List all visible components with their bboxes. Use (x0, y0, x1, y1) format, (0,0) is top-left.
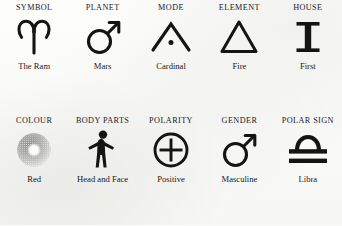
human-body-silhouette (68, 127, 136, 173)
column-header: SYMBOL (16, 3, 53, 13)
attribute-cell-symbol: SYMBOL The Ram (0, 0, 68, 113)
mars-masculine-glyph (205, 127, 273, 173)
attribute-caption: Fire (233, 61, 247, 72)
attribute-grid: SYMBOL The Ram PLANET (0, 0, 342, 225)
attribute-cell-polarity: POLARITY Positive (137, 113, 205, 226)
attribute-cell-body-parts: BODY PARTS Head and Face (68, 113, 136, 226)
column-header: PLANET (86, 3, 120, 13)
circled-plus-glyph (137, 127, 205, 173)
attribute-cell-house: HOUSE First (274, 0, 342, 113)
mars-planet-glyph (68, 14, 136, 60)
attribute-caption: Red (27, 174, 41, 185)
aries-ram-glyph (0, 14, 68, 60)
attribute-cell-polar-sign: POLAR SIGN Libra (274, 113, 342, 226)
column-header: MODE (158, 3, 184, 13)
attribute-caption: Mars (94, 61, 112, 72)
cardinal-mode-glyph (137, 14, 205, 60)
attribute-caption: Positive (157, 174, 185, 185)
column-header: GENDER (222, 116, 258, 126)
colour-swatch-red (0, 127, 68, 173)
column-header: POLARITY (149, 116, 193, 126)
astrology-reference-sheet: SYMBOL The Ram PLANET (0, 0, 342, 225)
attribute-caption: First (300, 61, 316, 72)
attribute-row: SYMBOL The Ram PLANET (0, 0, 342, 113)
attribute-caption: Masculine (222, 174, 258, 185)
column-header: POLAR SIGN (282, 116, 334, 126)
attribute-cell-element: ELEMENT Fire (205, 0, 273, 113)
roman-numeral-one-glyph (274, 14, 342, 60)
attribute-cell-colour: COLOUR Red (0, 113, 68, 226)
attribute-row: COLOUR Red BODY PARTS Head and Face POLA… (0, 113, 342, 226)
attribute-cell-planet: PLANET Mars (68, 0, 136, 113)
libra-glyph (274, 127, 342, 173)
attribute-caption: Head and Face (77, 174, 128, 185)
attribute-caption: Cardinal (156, 61, 186, 72)
column-header: ELEMENT (219, 3, 260, 13)
column-header: BODY PARTS (76, 116, 129, 126)
column-header: HOUSE (293, 3, 322, 13)
halftone-ring-swatch (17, 133, 51, 167)
column-header: COLOUR (16, 116, 52, 126)
fire-triangle-glyph (205, 14, 273, 60)
attribute-caption: Libra (299, 174, 318, 185)
attribute-caption: The Ram (18, 61, 50, 72)
attribute-cell-gender: GENDER Masculine (205, 113, 273, 226)
attribute-cell-mode: MODE Cardinal (137, 0, 205, 113)
